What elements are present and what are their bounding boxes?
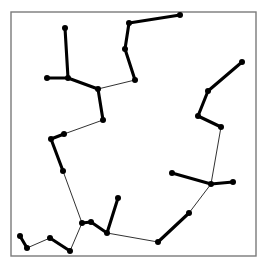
graph-node [100,117,106,123]
graph-node [17,233,23,239]
graph-node [65,75,71,81]
graph-figure [0,0,269,267]
graph-node [122,46,128,52]
graph-node [47,235,53,241]
graph-node [24,245,30,251]
graph-node [177,12,183,18]
graph-node [208,181,214,187]
graph-node [218,124,224,130]
graph-canvas [0,0,269,267]
graph-node [132,77,138,83]
graph-node [155,239,161,245]
graph-node [48,136,54,142]
graph-node [79,220,85,226]
graph-node [186,210,192,216]
graph-node [67,248,73,254]
graph-node [239,59,245,65]
graph-node [44,75,50,81]
graph-node [60,168,66,174]
graph-node [61,131,67,137]
graph-node [169,170,175,176]
graph-node [195,113,201,119]
graph-node [95,86,101,92]
graph-edge [211,182,233,184]
graph-node [62,25,68,31]
graph-node [115,195,121,201]
plot-frame [11,12,256,256]
graph-node [230,179,236,185]
graph-node [104,230,110,236]
graph-node [205,88,211,94]
graph-node [88,219,94,225]
graph-node [126,20,132,26]
